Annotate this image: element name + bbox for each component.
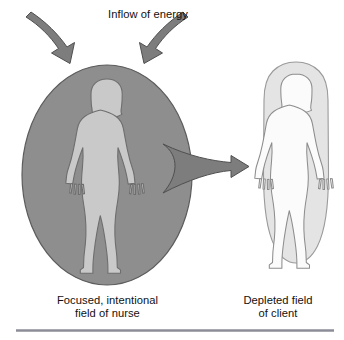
nurse-field-caption: Focused, intentionalfield of nurse <box>20 294 195 321</box>
diagram-canvas <box>0 0 344 340</box>
client-field-caption: Depleted fieldof client <box>218 294 338 321</box>
energy-transfer-arrow <box>163 144 249 193</box>
inflow-of-energy-label: Inflow of energy <box>78 8 218 21</box>
client-field-caption-line1: Depleted field <box>243 294 312 306</box>
inflow-arrow-left <box>26 12 75 64</box>
nurse-field-caption-line1: Focused, intentional <box>57 294 158 306</box>
energy-field-diagram: Inflow of energy Focused, intentionalfie… <box>0 0 344 340</box>
nurse-field-caption-line2: field of nurse <box>75 307 140 319</box>
client-field-caption-line2: of client <box>258 307 297 319</box>
